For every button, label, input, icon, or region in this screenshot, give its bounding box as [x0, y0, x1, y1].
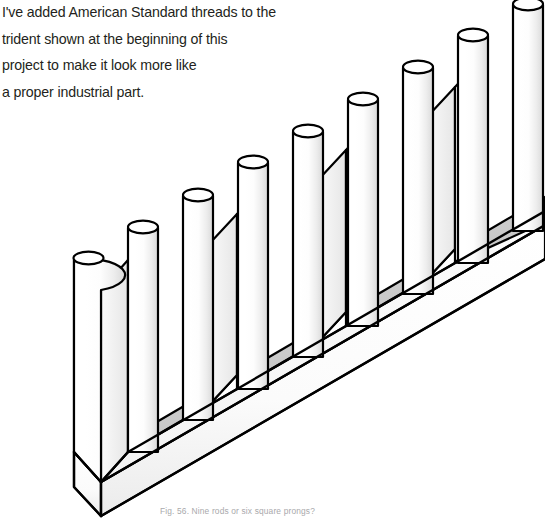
- rod-5-body: [293, 126, 323, 357]
- rod-2-top-cap: [128, 221, 158, 234]
- rod-7: [403, 61, 433, 294]
- rod-6-body: [348, 94, 378, 326]
- rod-7-top-cap: [403, 61, 433, 74]
- rod-6: [348, 93, 378, 326]
- rod-8: [458, 29, 488, 263]
- rod-1-top-cap: [74, 252, 104, 265]
- rod-2-body: [128, 222, 158, 452]
- rod-8-top-cap: [458, 29, 488, 42]
- rod-7-body: [403, 62, 433, 294]
- rod-9-body: [513, 0, 543, 231]
- body-text-block: the part by tapping a hole in the handle…: [2, 0, 332, 105]
- body-text-line-1: I've added American Standard threads to …: [2, 0, 332, 26]
- body-text-line-2: trident shown at the beginning of this: [2, 26, 332, 53]
- rod-9: [513, 0, 543, 231]
- body-text-line-3: project to make it look more like: [2, 52, 332, 79]
- rod-3-top-cap: [183, 189, 213, 202]
- rod-3: [183, 189, 213, 420]
- rod-3-body: [183, 190, 213, 420]
- base-left-upright-side: [101, 260, 128, 482]
- body-text-line-4: a proper industrial part.: [2, 79, 332, 106]
- rod-4-top-cap: [238, 156, 268, 169]
- page-canvas: the part by tapping a hole in the handle…: [0, 0, 545, 521]
- rod-8-body: [458, 30, 488, 263]
- figure-caption: Fig. 56. Nine rods or six square prongs?: [160, 506, 315, 516]
- rod-6-top-cap: [348, 93, 378, 106]
- rod-4: [238, 156, 268, 389]
- rod-2: [128, 221, 158, 452]
- rod-5: [293, 125, 323, 357]
- rod-5-top-cap: [293, 125, 323, 138]
- rod-4-body: [238, 157, 268, 389]
- rod-9-top-cap: [513, 0, 543, 10]
